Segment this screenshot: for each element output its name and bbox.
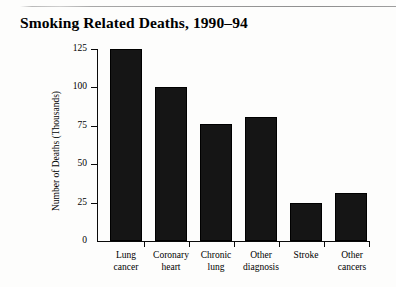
x-label-line2: diagnosis xyxy=(229,261,293,273)
y-tick-125 xyxy=(91,49,97,50)
x-tick-3 xyxy=(234,242,235,247)
bar-coronary-heart[interactable] xyxy=(155,87,187,241)
y-tick-label-125: 125 xyxy=(62,44,87,54)
bar-other-diagnosis[interactable] xyxy=(245,117,277,241)
x-label-line2: cancers xyxy=(323,261,381,273)
x-label-line1: Other xyxy=(323,249,381,261)
y-tick-label-50: 50 xyxy=(62,159,87,169)
chart-page: Smoking Related Deaths, 1990–94 Number o… xyxy=(0,0,396,287)
y-axis-label: Number of Deaths (Thousands) xyxy=(51,71,61,231)
bar-other-cancers[interactable] xyxy=(335,193,367,241)
y-tick-100 xyxy=(91,87,97,88)
x-tick-6 xyxy=(369,242,370,247)
bar-lung-cancer[interactable] xyxy=(110,49,142,241)
y-tick-label-25: 25 xyxy=(62,198,87,208)
bar-chart: Number of Deaths (Thousands) 125 100 75 … xyxy=(0,0,396,287)
x-tick-5 xyxy=(324,242,325,247)
x-tick-2 xyxy=(189,242,190,247)
y-tick-label-100: 100 xyxy=(62,82,87,92)
x-label-other-cancers: Other cancers xyxy=(323,249,381,273)
y-tick-25 xyxy=(91,203,97,204)
bar-chronic-lung[interactable] xyxy=(200,124,232,241)
bar-stroke[interactable] xyxy=(290,203,322,241)
x-tick-4 xyxy=(279,242,280,247)
y-axis-line xyxy=(97,49,98,242)
y-tick-50 xyxy=(91,164,97,165)
x-tick-1 xyxy=(144,242,145,247)
y-tick-label-0: 0 xyxy=(62,236,87,246)
y-tick-75 xyxy=(91,126,97,127)
y-tick-label-75: 75 xyxy=(62,121,87,131)
